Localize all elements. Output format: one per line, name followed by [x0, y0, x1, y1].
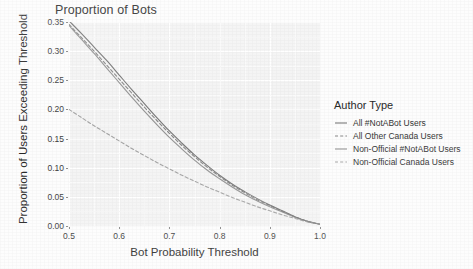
x-tick-mark	[169, 227, 170, 229]
x-tick-label: 0.6	[104, 231, 134, 241]
legend-items: All #NotABot UsersAll Other Canada Users…	[334, 117, 473, 168]
legend-item[interactable]: All Other Canada Users	[334, 130, 473, 142]
x-tick-label: 0.8	[205, 231, 235, 241]
legend-key-line-icon	[334, 157, 348, 167]
x-tick-label: 0.5	[54, 231, 84, 241]
legend-item[interactable]: Non-Official #NotABot Users	[334, 143, 473, 155]
chart-figure: Proportion of Bots Proportion of Users E…	[0, 0, 473, 269]
legend-item[interactable]: Non-Official Canada Users	[334, 156, 473, 168]
legend-item[interactable]: All #NotABot Users	[334, 117, 473, 129]
x-tick-mark	[119, 227, 120, 229]
legend-item-label: Non-Official #NotABot Users	[353, 144, 461, 154]
legend-title: Author Type	[334, 99, 473, 111]
x-tick-mark	[270, 227, 271, 229]
x-tick-mark	[320, 227, 321, 229]
x-tick-label: 1.0	[305, 231, 335, 241]
legend-item-label: All #NotABot Users	[353, 118, 426, 128]
x-tick-mark	[220, 227, 221, 229]
x-tick-label: 0.9	[255, 231, 285, 241]
legend-key-line-icon	[334, 144, 348, 154]
x-tick-label: 0.7	[154, 231, 184, 241]
legend-key-line-icon	[334, 131, 348, 141]
legend-item-label: Non-Official Canada Users	[353, 157, 454, 167]
x-tick-mark	[69, 227, 70, 229]
legend-key-line-icon	[334, 118, 348, 128]
legend: Author Type All #NotABot UsersAll Other …	[334, 99, 473, 169]
legend-item-label: All Other Canada Users	[353, 131, 443, 141]
